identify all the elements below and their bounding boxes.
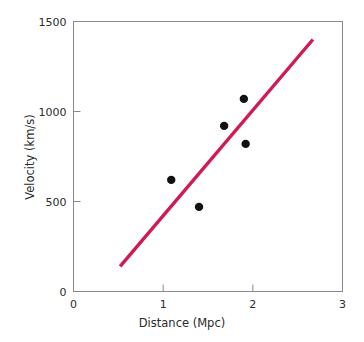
chart-figure: 050010001500 0123 Distance (Mpc) Velocit… [0,0,364,342]
plot-frame [74,22,343,292]
data-point [195,203,203,211]
x-axis-title: Distance (Mpc) [0,316,364,330]
y-axis-title: Velocity (km/s) [23,67,37,247]
y-tick-label: 1500 [18,15,67,28]
data-point [220,122,228,130]
data-point [241,140,249,148]
x-tick-label: 1 [160,298,167,311]
x-tick-label: 0 [70,298,77,311]
x-tick-label: 2 [249,298,256,311]
data-point [167,176,175,184]
x-tick-label: 3 [339,298,346,311]
data-point [240,95,248,103]
y-tick-label: 0 [18,285,67,298]
